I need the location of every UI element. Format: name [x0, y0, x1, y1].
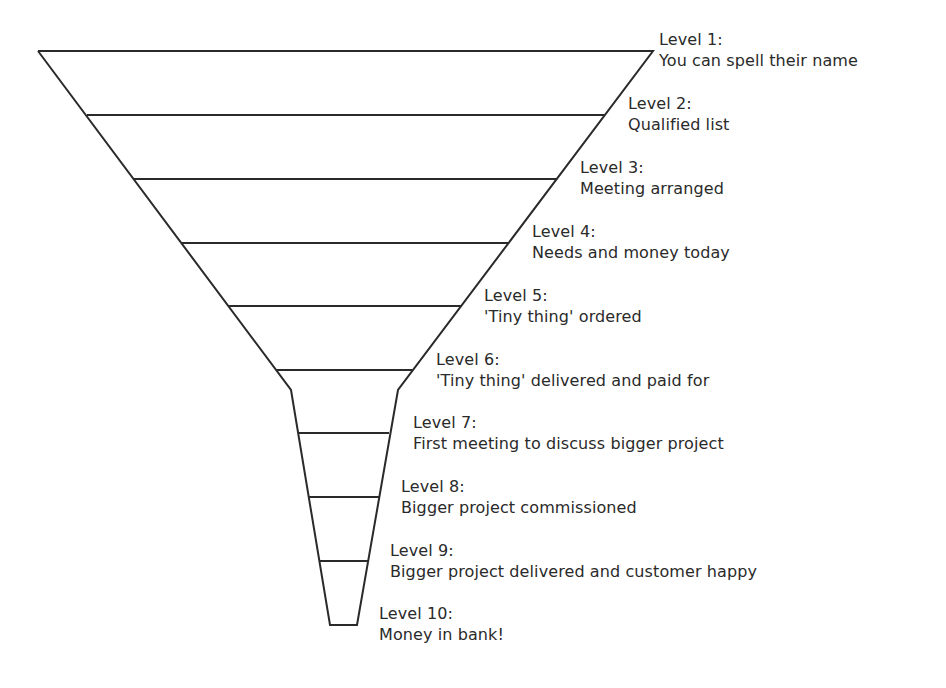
level-description: Bigger project commissioned — [401, 497, 637, 518]
level-title: Level 2: — [628, 93, 730, 114]
level-description: 'Tiny thing' ordered — [484, 306, 642, 327]
level-description: 'Tiny thing' delivered and paid for — [436, 370, 709, 391]
level-description: Bigger project delivered and customer ha… — [390, 561, 757, 582]
funnel-outline — [38, 51, 653, 625]
funnel-diagram — [0, 0, 946, 688]
level-description: Qualified list — [628, 114, 730, 135]
level-description: You can spell their name — [659, 50, 858, 71]
level-title: Level 4: — [532, 221, 730, 242]
level-label-6: Level 6: 'Tiny thing' delivered and paid… — [436, 349, 709, 391]
level-title: Level 9: — [390, 540, 757, 561]
level-title: Level 10: — [379, 603, 504, 624]
level-title: Level 5: — [484, 285, 642, 306]
level-description: First meeting to discuss bigger project — [413, 433, 724, 454]
level-label-1: Level 1: You can spell their name — [659, 29, 858, 71]
level-description: Needs and money today — [532, 242, 730, 263]
level-title: Level 3: — [580, 157, 724, 178]
level-title: Level 1: — [659, 29, 858, 50]
level-label-8: Level 8: Bigger project commissioned — [401, 476, 637, 518]
level-label-9: Level 9: Bigger project delivered and cu… — [390, 540, 757, 582]
level-title: Level 6: — [436, 349, 709, 370]
level-label-2: Level 2: Qualified list — [628, 93, 730, 135]
level-description: Money in bank! — [379, 624, 504, 645]
level-label-10: Level 10: Money in bank! — [379, 603, 504, 645]
level-description: Meeting arranged — [580, 178, 724, 199]
level-label-5: Level 5: 'Tiny thing' ordered — [484, 285, 642, 327]
level-label-4: Level 4: Needs and money today — [532, 221, 730, 263]
level-title: Level 8: — [401, 476, 637, 497]
level-title: Level 7: — [413, 412, 724, 433]
level-label-3: Level 3: Meeting arranged — [580, 157, 724, 199]
level-label-7: Level 7: First meeting to discuss bigger… — [413, 412, 724, 454]
